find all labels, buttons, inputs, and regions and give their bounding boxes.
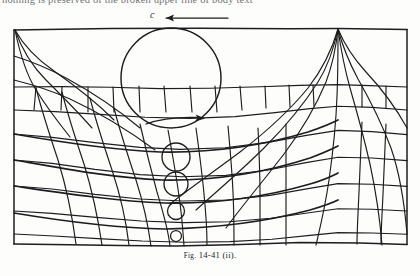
diagram-frame (14, 28, 407, 246)
figure-caption-prefix: Fig. (184, 252, 197, 260)
figure-caption: Fig. 14-41 (ii). (0, 250, 420, 260)
orbital-rotation-arrow-icon (146, 114, 205, 124)
figure-caption-number: 14-41 (ii). (199, 250, 237, 260)
orbit-depth-4-circle (171, 231, 182, 242)
figure-page: nothing is preserved of the broken upper… (0, 0, 420, 276)
orbit-depth-3-circle (168, 203, 185, 220)
orbit-depth-1-circle (162, 143, 190, 171)
flow-net-diagram (0, 0, 420, 276)
orbital-circles (121, 28, 221, 242)
streamlines (14, 29, 407, 246)
surface-orbit-large-circle (121, 28, 221, 128)
